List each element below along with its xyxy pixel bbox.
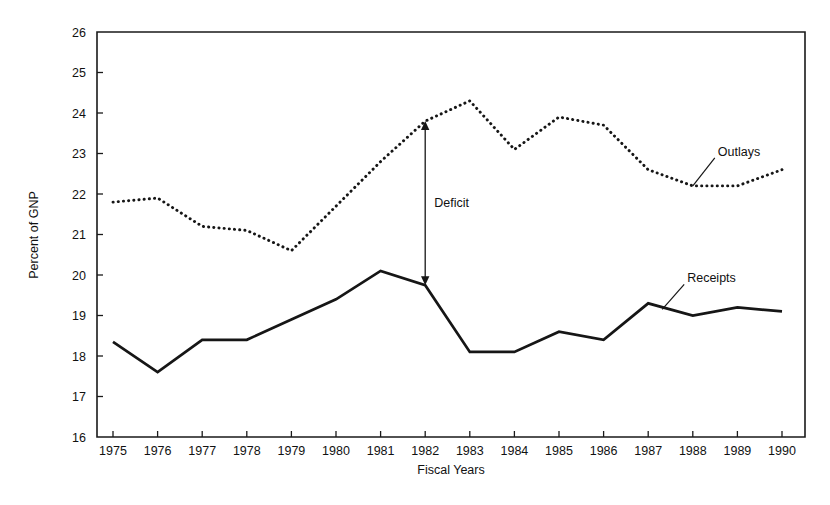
receipts-label-group: Receipts	[662, 271, 736, 309]
y-tick-label: 16	[72, 431, 86, 445]
x-tick-label: 1986	[590, 444, 618, 458]
y-tick-label: 23	[72, 147, 86, 161]
y-tick-label: 18	[72, 350, 86, 364]
y-axis-ticks: 1617181920212223242526	[72, 26, 103, 445]
x-axis-title: Fiscal Years	[417, 463, 484, 477]
x-tick-label: 1985	[545, 444, 573, 458]
receipts-leader-line	[662, 284, 684, 309]
x-tick-label: 1981	[367, 444, 395, 458]
y-axis-title: Percent of GNP	[27, 191, 41, 279]
chart-page: 1617181920212223242526 19751976197719781…	[0, 0, 830, 505]
y-tick-label: 22	[72, 188, 86, 202]
x-tick-label: 1975	[99, 444, 127, 458]
x-tick-label: 1979	[277, 444, 305, 458]
outlays-label: Outlays	[718, 145, 760, 159]
x-tick-label: 1978	[233, 444, 261, 458]
y-tick-label: 25	[72, 66, 86, 80]
x-tick-label: 1988	[679, 444, 707, 458]
x-tick-label: 1987	[634, 444, 662, 458]
y-tick-label: 20	[72, 269, 86, 283]
outlays-label-group: Outlays	[693, 145, 760, 186]
y-tick-label: 26	[72, 26, 86, 40]
y-tick-label: 17	[72, 390, 86, 404]
x-tick-label: 1982	[411, 444, 439, 458]
series-line-receipts	[113, 271, 782, 372]
deficit-annotation: Deficit	[421, 121, 469, 285]
y-tick-label: 19	[72, 309, 86, 323]
x-tick-label: 1990	[768, 444, 796, 458]
y-tick-label: 21	[72, 228, 86, 242]
x-tick-label: 1977	[188, 444, 216, 458]
deficit-label: Deficit	[434, 196, 469, 210]
outlays-leader-line	[693, 158, 715, 186]
line-chart: 1617181920212223242526 19751976197719781…	[0, 0, 830, 505]
series-line-outlays	[113, 101, 782, 251]
chart-axes	[97, 32, 805, 437]
x-tick-label: 1976	[144, 444, 172, 458]
plot-frame	[97, 32, 805, 437]
x-tick-label: 1989	[723, 444, 751, 458]
x-axis-ticks: 1975197619771978197919801981198219831984…	[99, 431, 796, 458]
y-tick-label: 24	[72, 107, 86, 121]
receipts-label: Receipts	[687, 271, 736, 285]
x-tick-label: 1980	[322, 444, 350, 458]
x-tick-label: 1983	[456, 444, 484, 458]
x-tick-label: 1984	[500, 444, 528, 458]
